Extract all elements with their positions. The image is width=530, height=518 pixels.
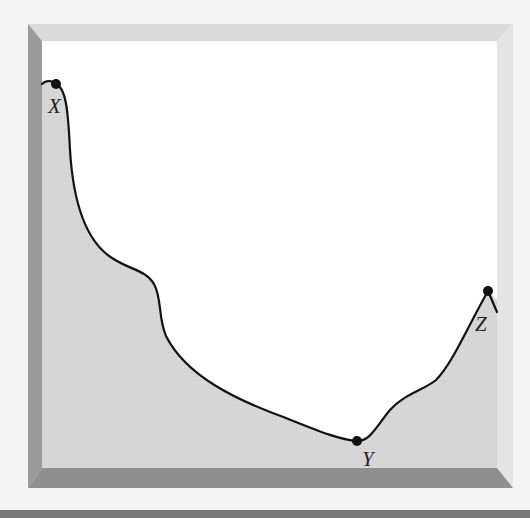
frame-bottom-face <box>28 468 513 488</box>
frame-right-face <box>497 24 513 488</box>
point-z-label: Z <box>475 312 487 336</box>
point-z-marker <box>483 286 493 296</box>
point-x-marker <box>51 79 61 89</box>
frame-top-face <box>28 24 513 41</box>
bottom-bar <box>0 510 530 518</box>
point-x-label: X <box>47 94 62 118</box>
frame-left-face <box>28 24 42 488</box>
point-y-marker <box>352 436 362 446</box>
valley-profile-diagram: X Y Z <box>0 0 530 518</box>
diagram-canvas: X Y Z <box>0 0 530 518</box>
